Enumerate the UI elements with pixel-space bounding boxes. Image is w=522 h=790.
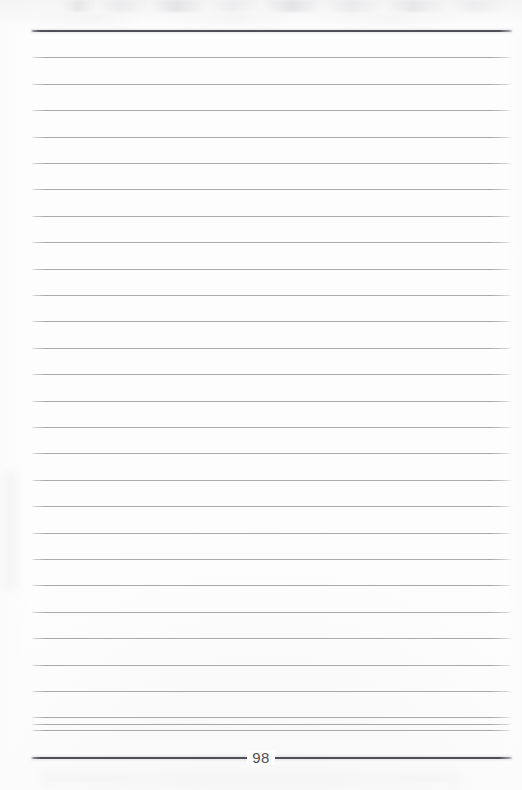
top-heavy-rule	[31, 30, 512, 32]
rule-line	[31, 559, 512, 560]
rule-line	[31, 110, 512, 111]
rule-line	[31, 242, 512, 243]
bottom-heavy-rule	[31, 757, 512, 759]
rule-line	[31, 730, 512, 731]
rule-line	[31, 374, 512, 375]
rule-line	[31, 57, 512, 58]
rule-line	[31, 453, 512, 454]
rule-line	[31, 163, 512, 164]
rule-line	[31, 137, 512, 138]
rule-line	[31, 585, 512, 586]
rule-line	[31, 401, 512, 402]
rule-line	[31, 427, 512, 428]
rule-line	[31, 717, 512, 718]
rule-line	[31, 724, 512, 725]
rule-line	[31, 665, 512, 666]
rule-line	[31, 533, 512, 534]
rule-line	[31, 216, 512, 217]
rule-line	[31, 269, 512, 270]
rule-line	[31, 348, 512, 349]
ruled-lines	[0, 0, 522, 790]
rule-line	[31, 612, 512, 613]
rule-line	[31, 506, 512, 507]
rule-line	[31, 84, 512, 85]
rule-line	[31, 691, 512, 692]
rule-line	[31, 295, 512, 296]
rule-line	[31, 321, 512, 322]
rule-line	[31, 480, 512, 481]
notebook-page: 98	[0, 0, 522, 790]
rule-line	[31, 638, 512, 639]
rule-line	[31, 189, 512, 190]
